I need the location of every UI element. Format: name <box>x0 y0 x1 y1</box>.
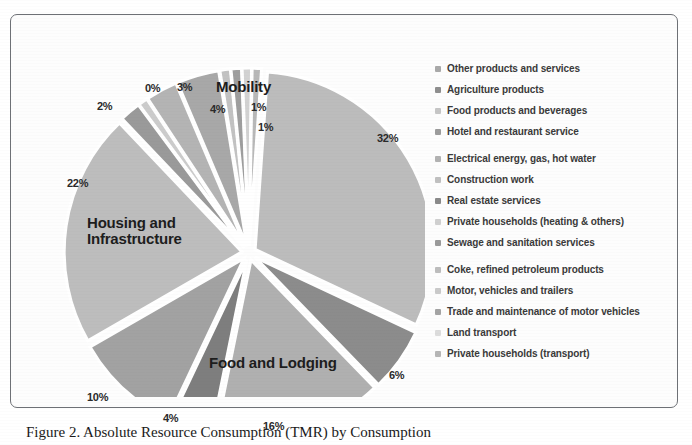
pie-percent-label: 4% <box>163 412 178 424</box>
legend-item-label: Private households (transport) <box>447 348 590 360</box>
legend-item-label: Sewage and sanitation services <box>447 237 595 249</box>
legend-item[interactable]: Construction work <box>435 174 681 187</box>
legend-swatch-icon <box>435 219 441 225</box>
legend-swatch-icon <box>435 129 441 135</box>
legend-swatch-icon <box>435 240 441 246</box>
legend-swatch-icon <box>435 330 441 336</box>
pie-group-label: Food and Lodging <box>209 355 337 371</box>
legend-swatch-icon <box>435 108 441 114</box>
legend-group: Coke, refined petroleum productsMotor, v… <box>435 264 681 361</box>
legend-item-label: Construction work <box>447 174 534 186</box>
pie-percent-label: 22% <box>67 177 88 189</box>
legend-item-label: Other products and services <box>447 63 580 75</box>
pie-percent-label: 0% <box>145 82 160 94</box>
legend-item[interactable]: Private households (transport) <box>435 348 681 361</box>
legend-item-label: Motor, vehicles and trailers <box>447 285 573 297</box>
legend-item-label: Agriculture products <box>447 84 544 96</box>
legend-item[interactable]: Other products and services <box>435 63 681 76</box>
legend-swatch-icon <box>435 66 441 72</box>
pie-slice <box>255 72 425 325</box>
figure-caption: Figure 2. Absolute Resource Consumption … <box>26 424 676 445</box>
pie-group-label: Mobility <box>216 79 271 95</box>
pie-percent-label: 4% <box>210 103 225 115</box>
legend-item[interactable]: Electrical energy, gas, hot water <box>435 153 681 166</box>
legend-swatch-icon <box>435 351 441 357</box>
legend-item[interactable]: Land transport <box>435 327 681 340</box>
pie-percent-label: 6% <box>389 369 404 381</box>
pie-percent-label: 2% <box>97 100 112 112</box>
legend-item[interactable]: Motor, vehicles and trailers <box>435 285 681 298</box>
legend-group: Other products and servicesAgriculture p… <box>435 63 681 139</box>
pie-percent-label: 3% <box>177 81 192 93</box>
legend-item-label: Real estate services <box>447 195 541 207</box>
legend-item-label: Land transport <box>447 327 516 339</box>
legend-item[interactable]: Sewage and sanitation services <box>435 237 681 250</box>
legend-item-label: Trade and maintenance of motor vehicles <box>447 306 640 318</box>
pie-percent-label: 1% <box>258 121 273 133</box>
legend-swatch-icon <box>435 267 441 273</box>
legend-swatch-icon <box>435 177 441 183</box>
legend-item[interactable]: Hotel and restaurant service <box>435 126 681 139</box>
legend-item-label: Electrical energy, gas, hot water <box>447 153 596 165</box>
pie-group-label: Housing and Infrastructure <box>87 215 207 247</box>
legend-item[interactable]: Private households (heating & others) <box>435 216 681 229</box>
pie-percent-label: 32% <box>377 132 398 144</box>
legend-item-label: Hotel and restaurant service <box>447 126 579 138</box>
legend-item[interactable]: Real estate services <box>435 195 681 208</box>
legend-swatch-icon <box>435 198 441 204</box>
legend-swatch-icon <box>435 87 441 93</box>
pie-percent-label: 1% <box>251 101 266 113</box>
legend-item[interactable]: Coke, refined petroleum products <box>435 264 681 277</box>
legend-swatch-icon <box>435 288 441 294</box>
figure-frame: 32%6%16%4%10%22%2%0%3%4%1%1% MobilityHou… <box>10 14 678 408</box>
legend-item-label: Private households (heating & others) <box>447 216 624 228</box>
legend-swatch-icon <box>435 309 441 315</box>
legend-item[interactable]: Trade and maintenance of motor vehicles <box>435 306 681 319</box>
pie-percent-label: 10% <box>87 391 108 403</box>
pie-chart: 32%6%16%4%10%22%2%0%3%4%1%1% MobilityHou… <box>25 37 425 397</box>
legend-item[interactable]: Food products and beverages <box>435 105 681 118</box>
legend-swatch-icon <box>435 156 441 162</box>
legend-group: Electrical energy, gas, hot waterConstru… <box>435 153 681 250</box>
legend-item-label: Coke, refined petroleum products <box>447 264 604 276</box>
legend-item-label: Food products and beverages <box>447 105 587 117</box>
legend-item[interactable]: Agriculture products <box>435 84 681 97</box>
chart-legend: Other products and servicesAgriculture p… <box>435 63 681 361</box>
